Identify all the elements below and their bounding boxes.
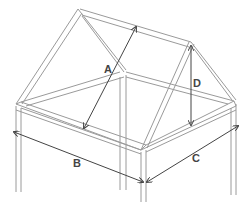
roof-frame-diagram	[0, 0, 239, 212]
frame-lines	[16, 9, 236, 202]
label-b: B	[73, 157, 81, 169]
label-a: A	[104, 63, 112, 75]
label-d: D	[193, 77, 201, 89]
back-left-beam	[21, 72, 124, 106]
label-c: C	[192, 152, 200, 164]
right-gable	[141, 42, 236, 150]
front-right-beam	[141, 101, 236, 152]
